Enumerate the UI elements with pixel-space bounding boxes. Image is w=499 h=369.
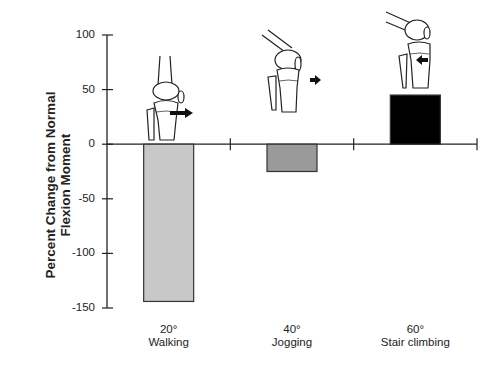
- y-tick-label: 100: [55, 28, 95, 40]
- knee-illustration-stair-climbing: [386, 12, 430, 88]
- chart-canvas: [0, 0, 499, 369]
- knee-illustration-jogging: [262, 30, 301, 112]
- x-category-label: 40°Jogging: [232, 323, 352, 349]
- y-axis-label: Percent Change from Normal Flexion Momen…: [43, 65, 73, 305]
- category-angle: 40°: [232, 323, 352, 336]
- bars: [144, 95, 441, 301]
- knee-illustrations: [147, 12, 430, 140]
- category-activity: Stair climbing: [355, 336, 475, 349]
- category-activity: Jogging: [232, 336, 352, 349]
- bar-jogging: [267, 144, 317, 171]
- bar-stair-climbing: [390, 95, 440, 144]
- bar-walking: [144, 144, 194, 301]
- x-category-label: 20°Walking: [109, 323, 229, 349]
- category-angle: 60°: [355, 323, 475, 336]
- category-angle: 20°: [109, 323, 229, 336]
- arrow-anterior-icon: [310, 75, 321, 85]
- knee-illustration-walking: [147, 56, 184, 140]
- y-axis-label-line-2: Flexion Moment: [58, 65, 73, 305]
- x-category-label: 60°Stair climbing: [355, 323, 475, 349]
- y-axis-label-line-1: Percent Change from Normal: [43, 65, 58, 305]
- category-activity: Walking: [109, 336, 229, 349]
